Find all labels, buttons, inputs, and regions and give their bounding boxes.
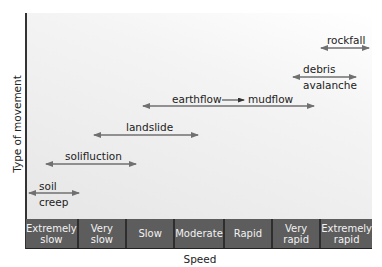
speed-scale: Extremely slow Very slow Slow Moderate R…: [26, 219, 372, 249]
rockfall-label: rockfall: [327, 34, 365, 46]
x-axis-label: Speed: [150, 253, 250, 265]
creep-label: creep: [39, 196, 68, 208]
speed-extremely-slow: Extremely slow: [26, 219, 79, 248]
landslide-label: landslide: [126, 121, 173, 133]
speed-slow: Slow: [127, 219, 175, 248]
soil-label: soil: [39, 180, 57, 192]
speed-rapid: Rapid: [225, 219, 273, 248]
speed-moderate: Moderate: [175, 219, 225, 248]
mudflow-label: mudflow: [248, 93, 293, 105]
debris-label: debris: [303, 63, 336, 75]
speed-very-rapid: Very rapid: [273, 219, 321, 248]
speed-very-slow: Very slow: [79, 219, 127, 248]
speed-extremely-rapid: Extremely rapid: [321, 219, 372, 248]
earthflow-label: earthflow: [172, 93, 222, 105]
avalanche-label: avalanche: [303, 79, 357, 91]
solifluction-label: solifluction: [65, 150, 122, 162]
